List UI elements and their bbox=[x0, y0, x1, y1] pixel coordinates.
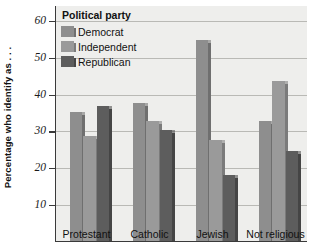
legend-swatch-side bbox=[74, 28, 76, 37]
bar-face bbox=[83, 136, 96, 241]
legend-swatch-side bbox=[74, 43, 76, 52]
bar-face bbox=[160, 130, 173, 241]
bar-top-bevel bbox=[285, 81, 288, 84]
bar-catholic-republican bbox=[160, 130, 173, 241]
legend-items: DemocratIndependentRepublican bbox=[61, 24, 165, 69]
legend-swatch-face bbox=[61, 56, 74, 67]
bar-top-bevel bbox=[172, 130, 175, 133]
legend-title: Political party bbox=[62, 9, 165, 21]
legend-swatch-republican-icon bbox=[61, 56, 74, 67]
bar-side bbox=[172, 133, 175, 241]
bar-face bbox=[97, 106, 110, 241]
bar-protestant-republican bbox=[97, 106, 110, 241]
x-axis-label: Not religious bbox=[244, 228, 307, 240]
y-tick-label: 20 bbox=[35, 161, 47, 173]
bar-jewish-independent bbox=[209, 140, 222, 241]
bar-face bbox=[272, 81, 285, 241]
legend-item-label: Republican bbox=[78, 56, 131, 68]
bar-top-bevel bbox=[235, 175, 238, 178]
bar-top-bevel bbox=[145, 103, 148, 106]
bar-top-bevel bbox=[82, 112, 85, 115]
x-axis-labels: ProtestantCatholicJewishNot religious bbox=[55, 228, 307, 249]
y-tick-label: 50 bbox=[35, 51, 47, 63]
bar-top-bevel bbox=[298, 151, 301, 154]
bar-protestant-independent bbox=[83, 136, 96, 241]
legend-item-label: Independent bbox=[78, 41, 136, 53]
chart-legend: Political party DemocratIndependentRepub… bbox=[61, 6, 165, 69]
bar-face bbox=[196, 40, 209, 241]
bar-top-bevel bbox=[222, 140, 225, 143]
y-tick-label: 60 bbox=[35, 14, 47, 26]
legend-swatch-face bbox=[61, 26, 74, 37]
bar-face bbox=[133, 103, 146, 241]
bar-not-religious-independent bbox=[272, 81, 285, 241]
legend-swatch-democrat-icon bbox=[61, 26, 74, 37]
legend-item-independent: Independent bbox=[61, 39, 165, 54]
legend-item-label: Democrat bbox=[78, 26, 124, 38]
bar-catholic-independent bbox=[146, 121, 159, 241]
chart-figure: Percentage who identify as . . . 1020304… bbox=[0, 0, 311, 249]
bar-top-bevel bbox=[159, 121, 162, 124]
bar-side bbox=[109, 109, 112, 241]
y-tick-label: 30 bbox=[35, 124, 47, 136]
legend-swatch-independent-icon bbox=[61, 41, 74, 52]
y-tick-label: 40 bbox=[35, 88, 47, 100]
legend-item-democrat: Democrat bbox=[61, 24, 165, 39]
x-axis-label: Catholic bbox=[118, 228, 181, 240]
legend-item-republican: Republican bbox=[61, 54, 165, 69]
bar-top-bevel bbox=[208, 40, 211, 43]
bar-not-religious-democrat bbox=[259, 121, 272, 241]
bar-catholic-democrat bbox=[133, 103, 146, 241]
bar-face bbox=[209, 140, 222, 241]
bar-top-bevel bbox=[109, 106, 112, 109]
legend-swatch-side bbox=[74, 58, 76, 67]
bar-jewish-democrat bbox=[196, 40, 209, 241]
bar-face bbox=[259, 121, 272, 241]
bar-face bbox=[146, 121, 159, 241]
y-tick-label: 10 bbox=[35, 198, 47, 210]
bar-protestant-democrat bbox=[70, 112, 83, 241]
x-axis-label: Protestant bbox=[55, 228, 118, 240]
bar-face bbox=[70, 112, 83, 241]
legend-swatch-face bbox=[61, 41, 74, 52]
y-axis-ticks: 102030405060 bbox=[0, 6, 55, 242]
x-axis-label: Jewish bbox=[181, 228, 244, 240]
